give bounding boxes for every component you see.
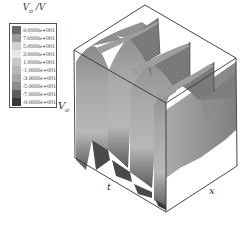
box-left-edge <box>74 50 75 158</box>
z-axis-label: Vo <box>58 100 69 113</box>
x-axis-label: x <box>209 185 215 196</box>
t-axis-label: t <box>107 181 111 192</box>
box-right-edge <box>236 58 237 166</box>
